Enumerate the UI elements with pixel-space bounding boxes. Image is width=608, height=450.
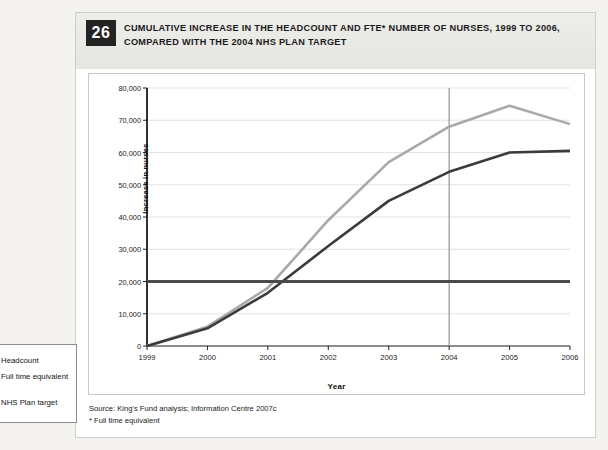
x-tick-label: 2002 (303, 353, 353, 362)
series-line-full-time-equivalent (147, 151, 570, 346)
source-line-1: Source: King's Fund analysis; Informatio… (89, 403, 585, 415)
y-tick-label: 50,000 (97, 180, 141, 189)
legend-item-nhs-plan-target: NHS Plan target (1, 398, 57, 408)
y-tick-label: 40,000 (97, 213, 141, 222)
series-line-headcount (147, 106, 570, 346)
figure-screenshot: 26 CUMULATIVE INCREASE IN THE HEADCOUNT … (0, 0, 608, 450)
chart-legend: Headcount Full time equivalent NHS Plan … (0, 344, 77, 423)
legend-item-headcount: Headcount (1, 356, 39, 366)
line-chart-svg (89, 74, 584, 394)
legend-item-full-time-equivalent: Full time equivalent (1, 372, 68, 382)
y-tick-label: 80,000 (97, 84, 141, 93)
y-tick-label: 0 (97, 342, 141, 351)
y-tick-label: 70,000 (97, 116, 141, 125)
y-axis-title: Increase in nurses (141, 119, 150, 239)
y-tick-label: 20,000 (97, 277, 141, 286)
figure-source-note: Source: King's Fund analysis; Informatio… (89, 403, 585, 426)
x-axis-title: Year (89, 382, 584, 391)
x-tick-label: 2003 (364, 353, 414, 362)
y-tick-label: 10,000 (97, 309, 141, 318)
chart-plot-area: Increase in nurses Year 010,00020,00030,… (88, 73, 585, 395)
x-tick-label: 2005 (485, 353, 535, 362)
source-line-2: * Full time equivalent (89, 415, 585, 427)
x-tick-label: 2006 (545, 353, 595, 362)
x-tick-label: 2004 (424, 353, 474, 362)
chart-canvas (89, 74, 584, 394)
figure-number-badge: 26 (86, 20, 116, 46)
x-tick-label: 2000 (182, 353, 232, 362)
x-tick-label: 1999 (122, 353, 172, 362)
y-tick-label: 60,000 (97, 148, 141, 157)
figure-header: 26 CUMULATIVE INCREASE IN THE HEADCOUNT … (76, 13, 595, 69)
figure-title: CUMULATIVE INCREASE IN THE HEADCOUNT AND… (124, 22, 587, 49)
x-tick-label: 2001 (243, 353, 293, 362)
figure-panel: 26 CUMULATIVE INCREASE IN THE HEADCOUNT … (75, 12, 596, 438)
y-tick-label: 30,000 (97, 245, 141, 254)
